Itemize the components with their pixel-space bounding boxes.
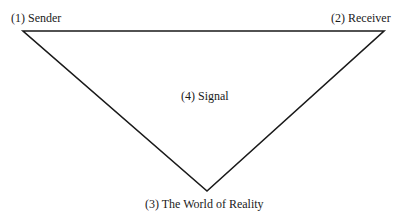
signal-label: (4) Signal (181, 89, 229, 103)
sender-label: (1) Sender (11, 11, 61, 25)
reality-label: (3) The World of Reality (145, 197, 264, 211)
triangle-diagram (0, 0, 400, 222)
receiver-label: (2) Receiver (331, 11, 391, 25)
communication-triangle (23, 31, 384, 191)
